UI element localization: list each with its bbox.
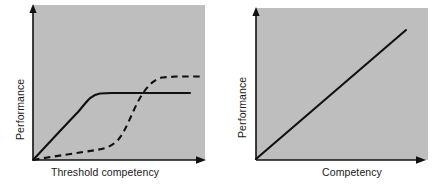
- right-x-axis-label: Competency: [252, 166, 440, 178]
- left-plot-background: [33, 5, 205, 160]
- left-x-axis-label: Threshold competency: [0, 166, 210, 178]
- right-chart-svg: [222, 0, 440, 186]
- right-y-axis-label: Performance: [236, 77, 248, 138]
- two-panel-competency-performance-figure: Threshold competency Performance Compete…: [0, 0, 440, 186]
- chart-panel-threshold-competency: Threshold competency Performance: [0, 0, 215, 186]
- left-chart-svg: [0, 0, 215, 186]
- left-y-axis-label: Performance: [14, 79, 26, 140]
- chart-panel-competency: Competency Performance: [222, 0, 440, 186]
